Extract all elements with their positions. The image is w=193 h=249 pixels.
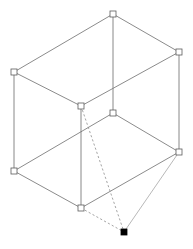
edge-lower-front-to-lower-right[interactable] <box>81 152 179 208</box>
edge-upper-right-to-upper-front[interactable] <box>81 52 179 106</box>
edge-top-back-to-upper-left[interactable] <box>14 14 113 72</box>
vertex-upper-front-center[interactable] <box>78 103 84 109</box>
vertex-lower-front-center[interactable] <box>78 205 84 211</box>
vertex-mid-back-center[interactable] <box>110 110 116 116</box>
edge-top-back-to-upper-right[interactable] <box>113 14 179 52</box>
vertex-apex-selected[interactable] <box>121 229 127 235</box>
vertex-lower-right[interactable] <box>176 149 182 155</box>
vertex-lower-left[interactable] <box>11 168 17 174</box>
edge-layer <box>14 14 179 232</box>
vertex-upper-right[interactable] <box>176 49 182 55</box>
vertex-upper-left[interactable] <box>11 69 17 75</box>
vertex-top-back[interactable] <box>110 11 116 17</box>
edge-lower-front-to-apex[interactable] <box>81 208 124 232</box>
edge-upper-left-to-upper-front[interactable] <box>14 72 81 106</box>
edge-lower-left-to-mid-back[interactable] <box>14 113 113 171</box>
edge-lower-right-to-apex[interactable] <box>124 152 179 232</box>
wireframe-drawing[interactable] <box>0 0 193 249</box>
edge-lower-left-to-lower-front[interactable] <box>14 171 81 208</box>
edge-upper-front-to-apex[interactable] <box>81 106 124 232</box>
edge-mid-back-to-lower-right[interactable] <box>113 113 179 152</box>
wireframe-canvas[interactable] <box>0 0 193 249</box>
